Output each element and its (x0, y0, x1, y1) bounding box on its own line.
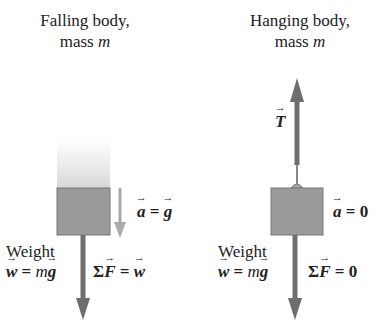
weight-equation: w = mg (218, 262, 268, 282)
equals: = (342, 202, 360, 221)
accel-symbol: a (333, 202, 342, 222)
weight-symbol: w (6, 262, 17, 282)
net-force-equation: ΣF = w (93, 262, 145, 282)
equals: = (115, 262, 133, 281)
weight-equation: w = mg (6, 262, 56, 282)
weight-symbol: w (218, 262, 229, 282)
mass-variable: m (313, 32, 325, 51)
falling-block (57, 188, 110, 235)
sigma: Σ (93, 262, 104, 281)
tension-arrow-icon (290, 78, 304, 188)
title-line: Hanging body, (225, 10, 375, 31)
zero: 0 (349, 262, 358, 281)
equals: = (330, 262, 348, 281)
net-force-equation: ΣF = 0 (308, 262, 357, 282)
gravity-symbol: g (48, 262, 57, 282)
force-symbol: F (319, 262, 330, 282)
gravity-symbol: g (260, 262, 269, 282)
mass-variable: m (98, 32, 110, 51)
mass-symbol: m (248, 262, 260, 281)
tension-symbol: T (275, 112, 285, 132)
tension-label: T (275, 112, 285, 132)
zero: 0 (360, 202, 369, 221)
accel-symbol: a (137, 202, 146, 222)
weight-arrow-icon (288, 235, 302, 320)
title-line: mass m (225, 31, 375, 52)
weight-symbol: w (134, 262, 145, 282)
acceleration-arrow-icon (114, 188, 126, 238)
hanging-body-title: Hanging body, mass m (225, 10, 375, 52)
falling-body-title: Falling body, mass m (10, 10, 160, 52)
title-line: Falling body, (10, 10, 160, 31)
gravity-symbol: g (164, 202, 173, 222)
sigma: Σ (308, 262, 319, 281)
equals: = (146, 202, 164, 221)
equals: = (229, 262, 247, 281)
title-text: mass (60, 32, 98, 51)
acceleration-equation: a = g (137, 202, 172, 222)
force-symbol: F (104, 262, 115, 282)
equals: = (17, 262, 35, 281)
title-line: mass m (10, 31, 160, 52)
mass-symbol: m (36, 262, 48, 281)
acceleration-equation: a = 0 (333, 202, 368, 222)
motion-blur (57, 140, 110, 188)
hanging-block (271, 188, 323, 235)
weight-arrow-icon (76, 235, 90, 320)
title-text: mass (275, 32, 313, 51)
